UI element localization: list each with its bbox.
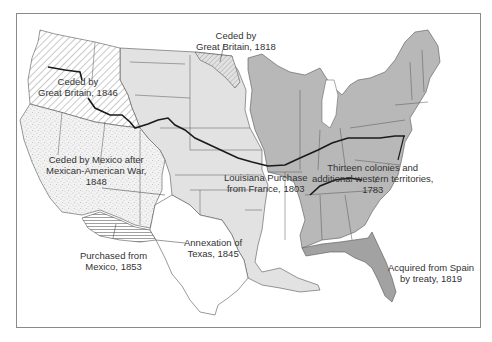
label-texas: Annexation of Texas, 1845: [184, 237, 242, 259]
label-line: Ceded by Mexico after: [46, 154, 146, 165]
label-red-river: Ceded by Great Britain, 1818: [196, 30, 276, 52]
label-line: Ceded by: [196, 30, 276, 41]
label-thirteen-colonies: Thirteen colonies and additional western…: [312, 162, 433, 195]
label-line: additional western territories,: [312, 173, 433, 184]
label-line: Annexation of: [184, 237, 242, 248]
label-line: Mexico, 1853: [80, 261, 147, 272]
label-mexican-cession: Ceded by Mexico after Mexican-American W…: [46, 154, 146, 187]
label-line: from France, 1803: [224, 183, 307, 194]
label-line: Ceded by: [38, 76, 118, 87]
label-line: Great Britain, 1818: [196, 41, 276, 52]
label-line: Thirteen colonies and: [312, 162, 433, 173]
label-line: Great Britain, 1846: [38, 87, 118, 98]
label-oregon: Ceded by Great Britain, 1846: [38, 76, 118, 98]
label-line: Purchased from: [80, 250, 147, 261]
label-gadsden: Purchased from Mexico, 1853: [80, 250, 147, 272]
label-florida: Acquired from Spain by treaty, 1819: [388, 262, 474, 284]
label-line: Mexican-American War,: [46, 165, 146, 176]
label-line: 1783: [312, 184, 433, 195]
label-line: Louisiana Purchase: [224, 172, 307, 183]
label-line: Acquired from Spain: [388, 262, 474, 273]
label-line: 1848: [46, 176, 146, 187]
label-line: by treaty, 1819: [388, 273, 474, 284]
label-line: Texas, 1845: [184, 248, 242, 259]
label-louisiana: Louisiana Purchase from France, 1803: [224, 172, 307, 194]
